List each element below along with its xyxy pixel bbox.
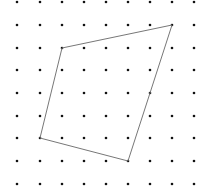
- grid-dot: [39, 92, 42, 95]
- grid-dot: [127, 24, 130, 27]
- grid-dot: [39, 183, 42, 186]
- grid-dot: [193, 92, 196, 95]
- grid-dot: [39, 69, 42, 72]
- grid-dot: [193, 160, 196, 163]
- grid-dot: [16, 24, 19, 27]
- grid-dot: [171, 137, 174, 140]
- grid-dot: [171, 115, 174, 118]
- grid-dots: [16, 1, 196, 186]
- grid-dot: [171, 160, 174, 163]
- grid-dot: [16, 92, 19, 95]
- grid-dot: [105, 47, 108, 50]
- grid-dot: [61, 69, 64, 72]
- grid-dot: [171, 47, 174, 50]
- grid-dot: [149, 1, 152, 4]
- grid-dot: [61, 160, 64, 163]
- grid-dot: [105, 1, 108, 4]
- grid-dot: [61, 1, 64, 4]
- grid-dot: [127, 137, 130, 140]
- grid-dot: [39, 24, 42, 27]
- grid-dot: [105, 160, 108, 163]
- grid-dot: [39, 115, 42, 118]
- grid-dot: [16, 183, 19, 186]
- grid-dot: [127, 47, 130, 50]
- grid-dot: [127, 115, 130, 118]
- grid-dot: [105, 183, 108, 186]
- grid-dot: [149, 137, 152, 140]
- grid-dot: [193, 115, 196, 118]
- grid-dot: [171, 69, 174, 72]
- grid-dot: [16, 160, 19, 163]
- grid-dot: [83, 92, 86, 95]
- grid-dot: [105, 137, 108, 140]
- grid-dot: [105, 24, 108, 27]
- grid-dot: [16, 47, 19, 50]
- grid-dot: [105, 69, 108, 72]
- grid-dot: [193, 183, 196, 186]
- grid-dot: [149, 47, 152, 50]
- grid-dot: [149, 24, 152, 27]
- grid-dot: [105, 92, 108, 95]
- grid-dot: [171, 92, 174, 95]
- grid-dot: [193, 69, 196, 72]
- grid-dot: [171, 183, 174, 186]
- grid-dot: [39, 160, 42, 163]
- grid-dot: [61, 183, 64, 186]
- grid-dot: [83, 47, 86, 50]
- grid-dot: [83, 137, 86, 140]
- grid-dot: [83, 24, 86, 27]
- grid-dot: [193, 47, 196, 50]
- grid-dot: [61, 115, 64, 118]
- grid-dot: [149, 160, 152, 163]
- dot-grid-diagram: [0, 0, 212, 187]
- grid-dot: [61, 24, 64, 27]
- grid-dot: [127, 1, 130, 4]
- grid-dot: [127, 69, 130, 72]
- grid-dot: [193, 24, 196, 27]
- grid-dot: [149, 115, 152, 118]
- grid-dot: [127, 92, 130, 95]
- grid-dot: [83, 1, 86, 4]
- grid-dot: [16, 115, 19, 118]
- grid-dot: [83, 69, 86, 72]
- grid-dot: [61, 137, 64, 140]
- grid-dot: [83, 115, 86, 118]
- grid-dot: [39, 47, 42, 50]
- grid-dot: [16, 137, 19, 140]
- grid-dot: [16, 1, 19, 4]
- grid-dot: [61, 92, 64, 95]
- grid-dot: [171, 1, 174, 4]
- grid-dot: [83, 183, 86, 186]
- grid-dot: [83, 160, 86, 163]
- grid-dot: [127, 183, 130, 186]
- grid-dot: [149, 69, 152, 72]
- grid-dot: [149, 183, 152, 186]
- grid-dot: [105, 115, 108, 118]
- grid-dot: [193, 137, 196, 140]
- grid-dot: [39, 1, 42, 4]
- grid-dot: [193, 1, 196, 4]
- grid-dot: [16, 69, 19, 72]
